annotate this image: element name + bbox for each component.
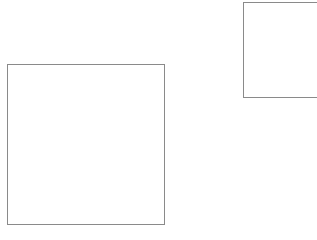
large-rectangle-shape[interactable]	[7, 64, 165, 225]
drawing-canvas[interactable]	[0, 0, 317, 240]
clipped-rectangle-shape[interactable]	[243, 2, 317, 98]
